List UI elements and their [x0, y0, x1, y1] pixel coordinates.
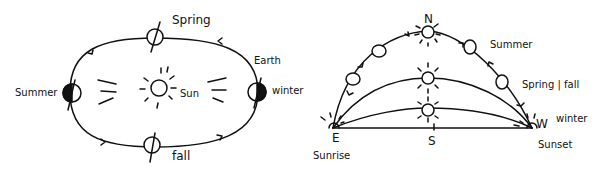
label-summer: Summer [15, 88, 57, 98]
summer-arc-arrow-4 [459, 43, 463, 47]
summer-sun-1 [346, 73, 360, 85]
label-west: W [536, 118, 548, 130]
heat-lines-left [98, 80, 116, 104]
orbit-diagram [63, 22, 266, 162]
label-winter: winter [272, 86, 303, 96]
label-east: E [332, 132, 340, 144]
winter-noon-sun [422, 104, 434, 116]
label-fall: fall [172, 150, 190, 162]
summer-sun-4 [496, 75, 508, 89]
diagram-canvas: Spring Summer Earth winter Sun fall N E … [0, 0, 602, 175]
orbit-arrow-top-right [218, 38, 222, 44]
sunrise-rays [321, 113, 344, 123]
spring-fall-noon-sun [422, 72, 434, 84]
sun-icon [140, 67, 176, 108]
label-spring-fall-path: Spring | fall [522, 80, 579, 90]
label-winter-path: winter [556, 114, 587, 124]
label-earth: Earth [254, 56, 281, 66]
earth-summer-icon [63, 80, 81, 110]
label-sunrise: Sunrise [313, 151, 350, 161]
orbit-path [70, 38, 258, 147]
summer-arc-arrow-5 [488, 62, 493, 66]
label-sun: Sun [180, 89, 199, 99]
label-north: N [424, 13, 433, 25]
orbit-arrow-bottom-left [101, 139, 105, 145]
label-spring: Spring [172, 14, 211, 26]
summer-sun-3 [464, 40, 476, 54]
summer-sun-2 [372, 45, 386, 57]
label-sunset: Sunset [538, 140, 572, 150]
earth-fall-icon [144, 133, 160, 162]
earth-spring-icon [147, 22, 163, 52]
label-south: S [428, 135, 436, 147]
summer-arc-arrow-1 [347, 91, 353, 95]
summer-sun-north [422, 26, 434, 38]
label-summer-path: Summer [490, 40, 532, 50]
heat-lines-right [208, 78, 226, 102]
